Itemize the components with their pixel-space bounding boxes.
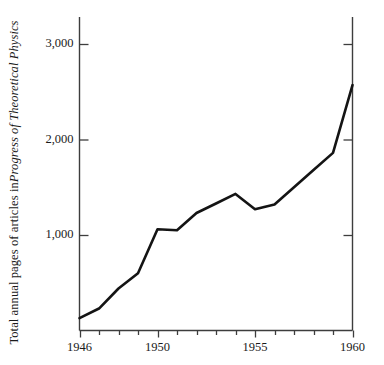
- x-tick-label: 1955: [225, 340, 285, 355]
- chart-figure: 1,0002,0003,000 1946195019551960 Total a…: [0, 0, 384, 365]
- chart-tick-marks: [80, 45, 354, 338]
- y-tick-label: 1,000: [45, 227, 73, 242]
- y-tick-label: 3,000: [45, 36, 73, 51]
- x-tick-label: 1946: [50, 340, 110, 355]
- line-chart-canvas: [0, 0, 384, 365]
- x-tick-label: 1950: [128, 340, 188, 355]
- data-series-line: [80, 85, 353, 318]
- y-tick-label: 2,000: [45, 132, 73, 147]
- chart-axes: [80, 17, 353, 331]
- x-tick-label: 1960: [323, 340, 383, 355]
